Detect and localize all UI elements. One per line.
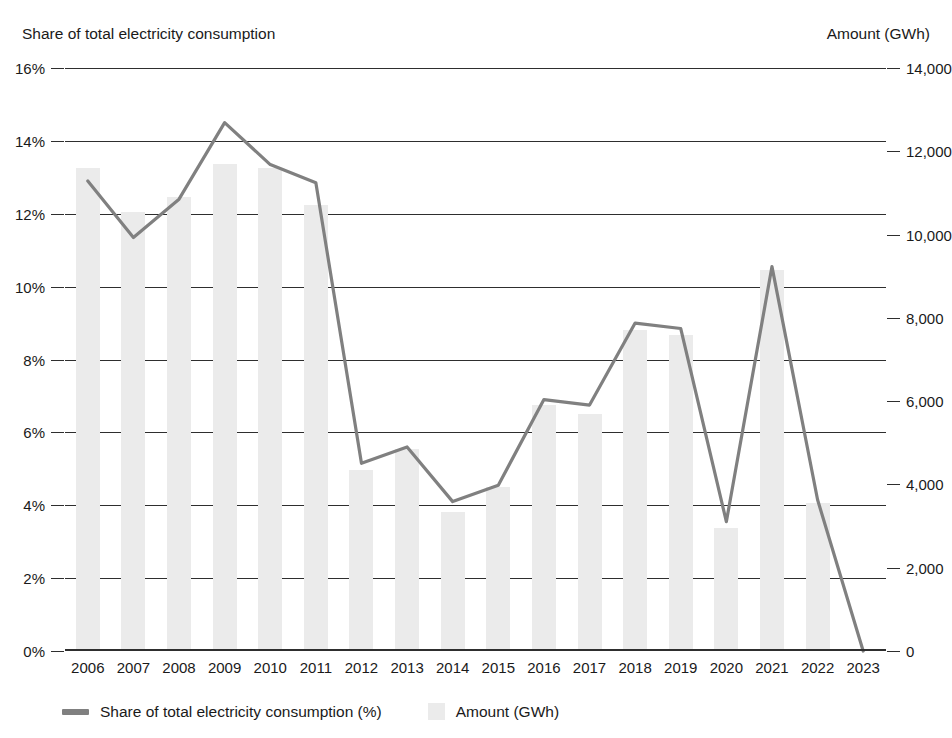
right-tick-stub [887,318,900,319]
left-tick-label: 0% [23,644,45,659]
left-axis-caption: Share of total electricity consumption [22,26,275,42]
x-axis-label: 2018 [618,660,651,675]
left-tick-stub [51,578,64,579]
x-axis-label: 2006 [71,660,104,675]
left-tick-label: 16% [15,61,45,76]
left-tick-label: 4% [23,498,45,513]
legend-line-marker-icon [62,709,89,715]
left-tick-label: 12% [15,206,45,221]
legend-label-share: Share of total electricity consumption (… [100,704,382,720]
legend-item-amount: Amount (GWh) [428,703,559,720]
x-axis-label: 2011 [300,660,332,675]
x-axis-label: 2019 [664,660,697,675]
x-axis-label: 2023 [847,660,880,675]
right-tick-label: 8,000 [906,310,944,325]
x-axis-label: 2017 [573,660,606,675]
x-axis-label: 2014 [436,660,469,675]
x-axis-label: 2021 [755,660,788,675]
x-axis-label: 2008 [162,660,195,675]
chart-legend: Share of total electricity consumption (… [62,703,559,720]
x-axis-label: 2012 [345,660,378,675]
right-tick-stub [887,68,900,69]
left-tick-stub [51,68,64,69]
x-axis-label: 2022 [801,660,834,675]
line-series [65,68,886,651]
right-tick-label: 6,000 [906,394,944,409]
x-axis-label: 2015 [482,660,515,675]
plot-area: 0%2%4%6%8%10%12%14%16% 02,0004,0006,0008… [65,68,886,651]
x-axis-label: 2009 [208,660,241,675]
left-tick-stub [51,214,64,215]
line-path [88,123,863,651]
left-tick-stub [51,287,64,288]
x-axis-baseline [65,649,886,651]
right-tick-stub [887,651,900,652]
left-tick-stub [51,141,64,142]
legend-label-amount: Amount (GWh) [456,704,559,720]
left-tick-stub [51,651,64,652]
right-tick-label: 14,000 [906,61,952,76]
right-tick-stub [887,484,900,485]
right-tick-stub [887,151,900,152]
left-tick-label: 2% [23,571,45,586]
left-tick-stub [51,505,64,506]
x-axis-label: 2007 [117,660,150,675]
right-tick-stub [887,568,900,569]
x-axis-label: 2010 [254,660,287,675]
left-tick-stub [51,432,64,433]
left-tick-label: 6% [23,425,45,440]
chart-root: Share of total electricity consumption A… [0,0,952,738]
legend-item-share: Share of total electricity consumption (… [62,704,382,720]
left-tick-label: 14% [15,133,45,148]
right-tick-stub [887,235,900,236]
left-tick-label: 10% [15,279,45,294]
left-tick-stub [51,360,64,361]
right-tick-label: 0 [906,644,914,659]
legend-bar-marker-icon [428,703,445,720]
right-tick-label: 2,000 [906,560,944,575]
x-axis-label: 2016 [527,660,560,675]
x-axis-label: 2020 [710,660,743,675]
right-axis-caption: Amount (GWh) [827,26,930,42]
right-tick-label: 12,000 [906,144,952,159]
right-tick-stub [887,401,900,402]
right-tick-label: 4,000 [906,477,944,492]
right-tick-label: 10,000 [906,227,952,242]
x-axis-label: 2013 [390,660,423,675]
x-axis-labels: 2006200720082009201020112012201320142015… [65,660,886,684]
left-tick-label: 8% [23,352,45,367]
